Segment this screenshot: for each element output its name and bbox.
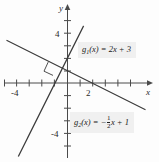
x-tick-label-2: 2 xyxy=(86,88,91,98)
g2-expression-suffix: x + 1 xyxy=(111,117,129,127)
g1-expression: (x) = 2x + 3 xyxy=(89,44,131,54)
coordinate-plane: y x -4 2 4 -4 xyxy=(0,0,159,162)
g2-fraction-denominator: 2 xyxy=(107,122,111,130)
y-axis-label: y xyxy=(58,3,63,13)
g2-fraction-numerator: 1 xyxy=(107,115,111,122)
x-axis-label: x xyxy=(145,87,150,97)
y-tick-label-4: 4 xyxy=(55,29,60,39)
y-axis xyxy=(65,4,71,158)
right-angle-marker xyxy=(44,62,53,75)
x-tick-label-neg4: -4 xyxy=(11,88,19,98)
equation-label-g1: g1(x) = 2x + 3 xyxy=(78,42,136,58)
graph-figure: y x -4 2 4 -4 g1(x) = 2x + 3 g2(x) = −12… xyxy=(0,0,159,162)
equation-label-g2: g2(x) = −12x + 1 xyxy=(70,112,134,133)
y-tick-label-neg4: -4 xyxy=(51,129,59,139)
g2-expression-prefix: (x) = − xyxy=(81,117,106,127)
g2-fraction: 12 xyxy=(107,115,111,130)
